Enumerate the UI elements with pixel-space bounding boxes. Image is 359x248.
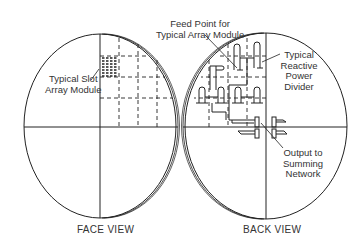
label-output: Output to Summing Network [281,148,325,180]
caption-face-view: FACE VIEW [77,224,134,235]
label-slot-module: Typical Slot Array Module [45,74,102,95]
label-power-divider: Typical Reactive Power Divider [279,50,319,92]
slot-array-module [101,56,118,77]
caption-back-view: BACK VIEW [243,224,301,235]
back-view-drawing [182,33,348,219]
face-view-drawing [24,34,180,218]
reactive-power-divider [196,42,263,123]
label-feed-point: Feed Point for Typical Array Module [156,19,244,40]
